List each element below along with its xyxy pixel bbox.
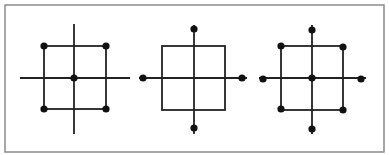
dot-right	[238, 74, 245, 81]
diagram-canvas	[0, 0, 389, 155]
dot-top-right	[102, 42, 109, 49]
figure-square-all-points	[259, 25, 366, 134]
dot-center	[308, 74, 315, 81]
dot-top-left	[40, 42, 47, 49]
figure-square-axis-endpoints	[139, 25, 247, 134]
figures-group	[20, 24, 366, 134]
dot-bottom-left	[277, 105, 284, 112]
dot-top	[190, 25, 197, 32]
dot-top	[308, 26, 315, 33]
dot-bottom-left	[40, 105, 47, 112]
dot-left	[259, 75, 266, 82]
dot-bottom-right	[339, 106, 346, 113]
dot-top-right	[339, 43, 346, 50]
dot-left	[139, 74, 146, 81]
figure-square-corners-and-center	[20, 24, 130, 134]
dot-center	[70, 74, 77, 81]
dot-bottom	[308, 125, 315, 132]
dot-bottom-right	[102, 105, 109, 112]
dot-top-left	[277, 42, 284, 49]
dot-right	[357, 75, 364, 82]
dot-bottom	[190, 124, 197, 131]
